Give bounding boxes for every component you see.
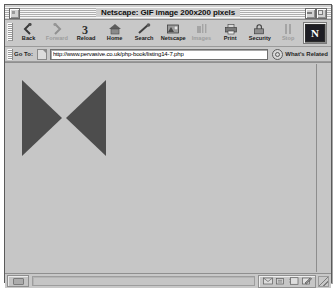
forward-icon — [49, 22, 65, 35]
page-viewport[interactable] — [6, 64, 317, 272]
print-icon — [223, 22, 239, 35]
toolbar-button-images[interactable]: Images — [187, 21, 216, 44]
toolbar-button-reload[interactable]: 3 Reload — [72, 21, 101, 44]
close-box[interactable] — [9, 8, 20, 19]
toolbar-label-search: Search — [135, 35, 154, 42]
whats-related-button[interactable]: What's Related — [272, 49, 328, 60]
screen: Netscape: GIF image 200x200 pixels Back — [0, 0, 336, 289]
newsgroup-icon[interactable] — [275, 277, 286, 286]
collapse-box[interactable] — [305, 8, 316, 19]
padlock-icon[interactable] — [7, 275, 29, 287]
home-icon — [107, 22, 123, 35]
toolbar-label-print: Print — [224, 35, 237, 42]
status-bar — [5, 274, 331, 288]
location-bar-grip[interactable] — [7, 49, 13, 60]
goto-label: Go To: — [14, 51, 33, 57]
window-title: Netscape: GIF image 200x200 pixels — [5, 7, 331, 19]
netscape-icon — [165, 22, 181, 35]
window-resize-grip[interactable] — [318, 276, 329, 287]
toolbar-button-home[interactable]: Home — [101, 21, 130, 44]
netscape-logo-letter: N — [306, 25, 324, 41]
toolbar-button-print[interactable]: Print — [216, 21, 245, 44]
status-message-box — [32, 276, 255, 286]
toolbar-label-home: Home — [107, 35, 123, 42]
url-text: http://www.pervasive.co.uk/php-book/list… — [53, 51, 184, 57]
toolbar-label-security: Security — [248, 35, 270, 42]
content-area — [5, 62, 331, 274]
search-icon — [136, 22, 152, 35]
back-icon — [20, 22, 36, 35]
reload-icon: 3 — [78, 22, 94, 35]
browser-window: Netscape: GIF image 200x200 pixels Back — [4, 4, 332, 283]
toolbar-label-back: Back — [22, 35, 35, 42]
component-bar — [258, 275, 316, 288]
toolbar-button-security[interactable]: Security — [245, 21, 274, 44]
toolbar-button-netscape[interactable]: Netscape — [158, 21, 187, 44]
security-icon — [251, 22, 267, 35]
composer-icon[interactable] — [301, 277, 312, 286]
stop-icon — [280, 22, 296, 35]
navigation-toolbar: Back Forward 3 — [5, 20, 331, 47]
toolbar-button-search[interactable]: Search — [130, 21, 159, 44]
toolbar-button-back[interactable]: Back — [14, 21, 43, 44]
addressbook-icon[interactable] — [288, 277, 299, 286]
toolbar-label-reload: Reload — [77, 35, 96, 42]
zoom-box[interactable] — [316, 8, 327, 19]
toolbar-button-forward[interactable]: Forward — [43, 21, 72, 44]
content-right-rail — [318, 63, 331, 273]
page-proxy-icon[interactable] — [37, 49, 47, 60]
mail-icon[interactable] — [262, 277, 273, 286]
location-bar: Go To: http://www.pervasive.co.uk/php-bo… — [5, 47, 331, 62]
netscape-logo-button[interactable]: N — [303, 22, 327, 44]
toolbar-grip[interactable] — [7, 23, 13, 41]
toolbar-label-netscape: Netscape — [160, 35, 185, 42]
toolbar-button-stop[interactable]: Stop — [274, 21, 303, 44]
bowtie-image — [22, 80, 106, 156]
url-input[interactable]: http://www.pervasive.co.uk/php-book/list… — [50, 49, 268, 60]
whats-related-icon — [272, 49, 283, 60]
images-icon — [194, 22, 210, 35]
toolbar-label-images: Images — [192, 35, 211, 42]
toolbar-label-stop: Stop — [282, 35, 294, 42]
title-bar[interactable]: Netscape: GIF image 200x200 pixels — [5, 5, 331, 20]
toolbar-label-forward: Forward — [46, 35, 68, 42]
svg-text:3: 3 — [82, 23, 88, 35]
whats-related-label: What's Related — [285, 51, 328, 57]
